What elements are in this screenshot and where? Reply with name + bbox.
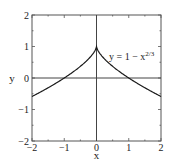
x-tick-label: 1 [126, 142, 131, 153]
y-tick-label: 2 [24, 10, 29, 21]
annotation-exponent: 2/3 [145, 50, 154, 58]
y-axis-label: y [9, 72, 15, 84]
x-tick-label: −1 [59, 142, 70, 153]
x-axis-label: x [94, 149, 100, 161]
y-tick-label: 1 [24, 41, 29, 52]
y-tick-label: −1 [18, 104, 29, 115]
y-tick-label: 0 [24, 73, 29, 84]
y-tick-labels: −2−1012 [18, 10, 29, 147]
y-tick-label: −2 [18, 136, 29, 147]
reference-axes [32, 15, 161, 141]
x-tick-label: 2 [159, 142, 164, 153]
annotation-main-text: y = 1 − x [109, 51, 145, 62]
curve-annotation: y = 1 − x2/3 [109, 50, 155, 62]
chart: −2−1012 −2−1012 x y y = 1 − x2/3 [0, 0, 173, 168]
